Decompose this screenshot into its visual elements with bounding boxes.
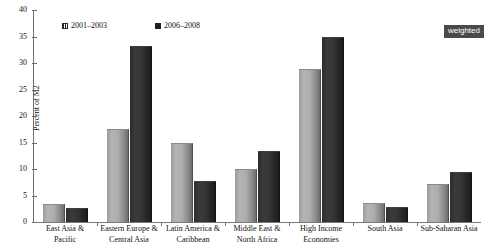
y-tick <box>32 143 37 144</box>
y-tick-label: 15 <box>7 139 27 147</box>
plot-area: 0510152025303540 <box>33 10 481 222</box>
bar[interactable] <box>107 129 129 222</box>
y-tick <box>32 37 37 38</box>
bar[interactable] <box>194 181 216 222</box>
y-tick-label: 20 <box>7 112 27 120</box>
x-axis-line <box>33 222 481 223</box>
y-tick <box>32 63 37 64</box>
x-category-label: Middle East &North Africa <box>225 224 289 245</box>
bar[interactable] <box>322 37 344 222</box>
y-tick-label: 5 <box>7 192 27 200</box>
bar[interactable] <box>258 151 280 222</box>
x-category-label: South Asia <box>353 224 417 235</box>
bar[interactable] <box>43 204 65 222</box>
x-category-label: High IncomeEconomies <box>289 224 353 245</box>
bar[interactable] <box>130 46 152 222</box>
bar[interactable] <box>171 143 193 222</box>
y-tick-label: 35 <box>7 33 27 41</box>
bar[interactable] <box>386 207 408 222</box>
bar[interactable] <box>235 169 257 222</box>
x-category-label: Eastern Europe &Central Asia <box>97 224 161 245</box>
bar[interactable] <box>363 203 385 222</box>
y-tick <box>32 196 37 197</box>
x-category-label: Sub-Saharan Asia <box>417 224 481 235</box>
y-tick-label: 25 <box>7 86 27 94</box>
bar[interactable] <box>450 172 472 222</box>
x-category-label: East Asia &Pacific <box>33 224 97 245</box>
y-tick-label: 40 <box>7 6 27 14</box>
y-tick-label: 0 <box>7 218 27 226</box>
x-category-label: Latin America &Caribbean <box>161 224 225 245</box>
chart-page: weighted Percent of M2 2001–20032006–200… <box>0 0 488 251</box>
y-tick-label: 10 <box>7 165 27 173</box>
y-tick <box>32 222 37 223</box>
y-tick <box>32 169 37 170</box>
bar[interactable] <box>427 184 449 222</box>
y-tick <box>32 90 37 91</box>
y-tick <box>32 10 37 11</box>
y-tick-label: 30 <box>7 59 27 67</box>
bar[interactable] <box>66 208 88 222</box>
y-tick <box>32 116 37 117</box>
bar[interactable] <box>299 69 321 222</box>
